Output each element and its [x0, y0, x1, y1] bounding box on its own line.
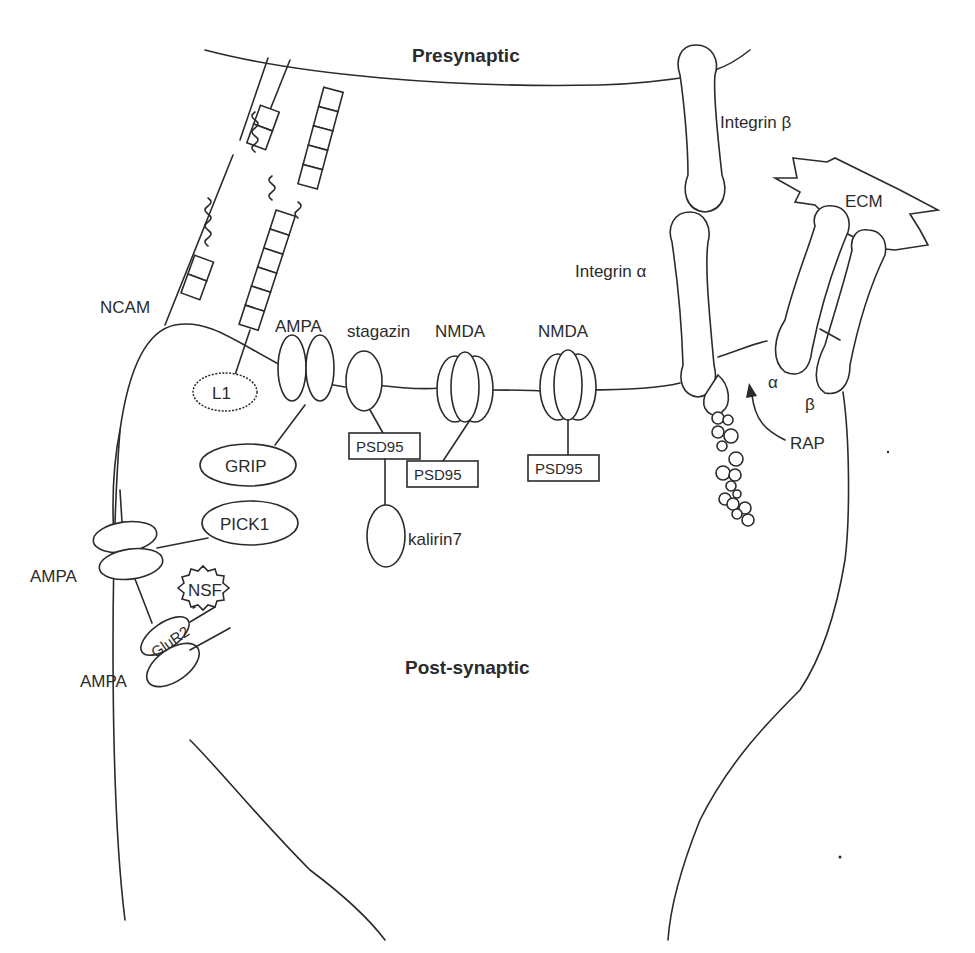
- ampa-top-label: AMPA: [275, 317, 323, 336]
- integrin-alpha: Integrin α: [575, 212, 715, 397]
- postsynaptic-title: Post-synaptic: [405, 657, 530, 678]
- ncam-label: NCAM: [100, 298, 150, 317]
- integrin-alpha-label: Integrin α: [575, 262, 646, 281]
- synapse-diagram: NCAM L1: [0, 0, 975, 953]
- ampa-receptor-side-1: AMPA: [30, 490, 208, 586]
- psd95-box-3: PSD95: [528, 455, 599, 481]
- ncam-domains: [181, 255, 213, 299]
- pick1: PICK1: [202, 501, 298, 545]
- nmda-2-label: NMDA: [538, 322, 589, 341]
- postsynaptic-membrane: [113, 324, 345, 920]
- nmda-receptor-1: NMDA: [435, 322, 493, 461]
- postsynaptic-membrane-right: [718, 341, 767, 357]
- psd95-3-label: PSD95: [535, 460, 583, 477]
- integrin-beta-label: Integrin β: [720, 113, 791, 132]
- nmda-1-label: NMDA: [435, 322, 486, 341]
- nsf: NSF: [178, 566, 229, 622]
- adhesion-strand-right: [295, 87, 343, 218]
- ampa-side-1-label: AMPA: [30, 567, 78, 586]
- psd95-1-label: PSD95: [356, 438, 404, 455]
- grip-label: GRIP: [225, 457, 267, 476]
- l1-domains: [239, 210, 295, 330]
- ncam: NCAM: [100, 58, 268, 325]
- stagazin: stagazin: [346, 322, 410, 433]
- psd95-2-label: PSD95: [414, 466, 462, 483]
- nsf-label: NSF: [188, 581, 222, 600]
- speck: [887, 451, 889, 453]
- speck: [839, 856, 842, 859]
- adhesion-strand-middle: [247, 60, 290, 152]
- postsynaptic-membrane-left-lower: [190, 740, 385, 940]
- integrin-pair-right: α β: [768, 206, 886, 414]
- alpha-label: α: [768, 373, 778, 392]
- ampa-side-2-label: AMPA: [80, 672, 128, 691]
- postsynaptic-membrane-right-outer: [668, 392, 849, 940]
- integrin-beta-body: [678, 45, 725, 212]
- nmda-receptor-2: NMDA: [538, 322, 596, 455]
- integrin-beta: Integrin β: [678, 45, 791, 212]
- beta-label: β: [805, 395, 815, 414]
- kalirin7-label: kalirin7: [408, 530, 462, 549]
- rap-arrow: [752, 395, 785, 440]
- stagazin-label: stagazin: [347, 322, 410, 341]
- psd95-box-2: PSD95: [407, 461, 478, 487]
- arrowhead-icon: [746, 383, 757, 398]
- integrin-alpha-body: [670, 212, 715, 397]
- rap: RAP: [746, 383, 825, 453]
- pick1-label: PICK1: [220, 515, 269, 534]
- kalirin7: kalirin7: [367, 505, 462, 567]
- ecm-label: ECM: [845, 192, 883, 211]
- ampa-receptor-top: AMPA: [275, 317, 334, 445]
- presynaptic-title: Presynaptic: [412, 45, 520, 66]
- grip: GRIP: [200, 444, 296, 486]
- rap-label: RAP: [790, 434, 825, 453]
- l1-label: L1: [212, 384, 231, 403]
- postsynaptic-membrane-top: [376, 383, 680, 391]
